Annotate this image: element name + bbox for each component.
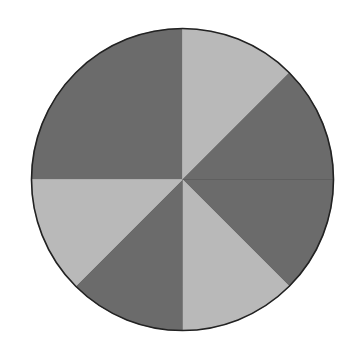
- sector-top-left-quarter: [32, 29, 183, 180]
- sector-circle-diagram: [0, 0, 354, 341]
